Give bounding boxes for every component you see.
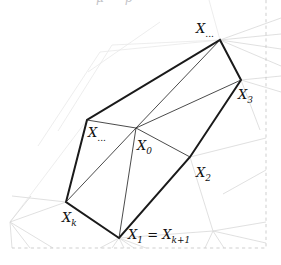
- bg-bottom-a: [100, 238, 119, 248]
- bg-fan-x3-a: [241, 76, 281, 80]
- bg-right-low-d: [213, 231, 224, 248]
- label-x-dots-left: X...: [87, 125, 106, 143]
- bg-left-e: [10, 222, 30, 248]
- label-x3: X3: [237, 87, 253, 105]
- bg-fan-top-d: [220, 40, 281, 66]
- bg-right-low-a: [213, 222, 266, 231]
- label-x2: X2: [195, 165, 211, 183]
- bg-left-f: [10, 222, 53, 248]
- label-x-top: X...: [195, 21, 214, 39]
- bg-left-d: [10, 222, 12, 248]
- label-layer: X... X3 X... X0 X2 Xk X1 = Xk+1: [61, 21, 253, 245]
- label-x0: X0: [136, 138, 152, 156]
- bg-fan-top-c: [220, 40, 281, 49]
- bg-upper-left-long: [12, 196, 66, 202]
- clipped-header-text: μ ρ: [96, 0, 142, 5]
- label-xk: Xk: [61, 210, 77, 228]
- bg-right-low-b: [213, 231, 266, 243]
- star-shaped-polygon-diagram: X... X3 X... X0 X2 Xk X1 = Xk+1: [0, 0, 281, 265]
- bg-left-a: [10, 120, 87, 222]
- bg-right-low-c: [205, 231, 213, 248]
- label-x1-equals-xk1: X1 = Xk+1: [127, 227, 190, 245]
- figure-root: μ ρ X... X3 X... X0 X2 Xk X1 = Xk+1: [0, 0, 281, 265]
- bg-far-right-a: [223, 170, 266, 194]
